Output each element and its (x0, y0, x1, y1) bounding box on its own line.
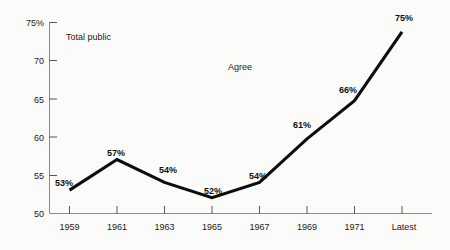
xlabel-1963: 1963 (154, 222, 174, 232)
xlabel-1965: 1965 (202, 222, 222, 232)
chart-canvas: 75% 70 65 60 55 50 1959 1961 1963 1965 1… (0, 0, 450, 250)
xlabel-1959: 1959 (59, 222, 79, 232)
axis-lines (50, 22, 433, 214)
point-label-1965: 52% (204, 186, 222, 196)
point-label-1963: 54% (159, 165, 177, 175)
ylabel-50: 50 (34, 209, 44, 219)
line-chart: 75% 70 65 60 55 50 1959 1961 1963 1965 1… (0, 0, 450, 250)
ylabel-70: 70 (34, 56, 44, 66)
xlabel-1969: 1969 (297, 222, 317, 232)
chart-annotations: Total public Agree (66, 32, 252, 72)
point-label-1967: 54% (249, 171, 267, 181)
y-axis-labels: 75% 70 65 60 55 50 (26, 18, 44, 219)
annotation-agree: Agree (228, 62, 252, 72)
xlabel-1971: 1971 (344, 222, 364, 232)
ylabel-65: 65 (34, 95, 44, 105)
ylabel-75: 75% (26, 18, 44, 28)
series-line-total-public (70, 32, 403, 198)
ylabel-60: 60 (34, 133, 44, 143)
xlabel-1961: 1961 (107, 222, 127, 232)
point-label-1961: 57% (107, 148, 125, 158)
axes (50, 22, 433, 214)
point-label-1959: 53% (55, 178, 73, 188)
point-label-1969: 61% (293, 120, 311, 130)
x-axis-labels: 1959 1961 1963 1965 1967 1969 1971 Lates… (59, 222, 416, 232)
xlabel-1967: 1967 (249, 222, 269, 232)
ylabel-55: 55 (34, 171, 44, 181)
point-label-latest: 75% (395, 13, 413, 23)
xlabel-latest: Latest (392, 222, 417, 232)
point-label-1971: 66% (339, 85, 357, 95)
annotation-total-public: Total public (66, 32, 112, 42)
